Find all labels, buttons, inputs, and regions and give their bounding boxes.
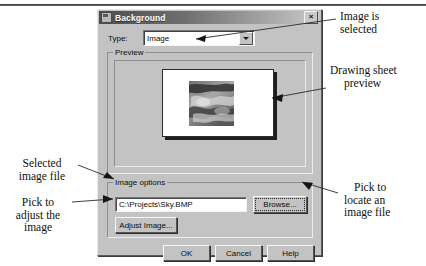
screenshot-root: Background × Type: Image Preview are th … [0,0,426,266]
callout-drawing-sheet-preview: Drawing sheet preview [330,64,397,89]
callout-selected-image-file: Selected image file [8,157,76,182]
callout-line: adjust the [4,209,72,222]
callout-line: image [4,221,72,234]
callout-line: image file [344,206,390,219]
callout-line: locate an [344,194,390,207]
callout-line: preview [330,77,397,90]
callout-line: selected [340,23,379,36]
callout-line: Pick to [4,196,72,209]
callout-line: image file [8,170,76,183]
callout-line: Image is [340,10,379,23]
callout-pick-to-adjust: Pick to adjust the image [4,196,72,234]
callout-line: Pick to [344,181,390,194]
callout-pick-to-locate: Pick to locate an image file [344,181,390,219]
callout-image-is-selected: Image is selected [340,10,379,35]
callout-line: Selected [8,157,76,170]
callout-line: Drawing sheet [330,64,397,77]
